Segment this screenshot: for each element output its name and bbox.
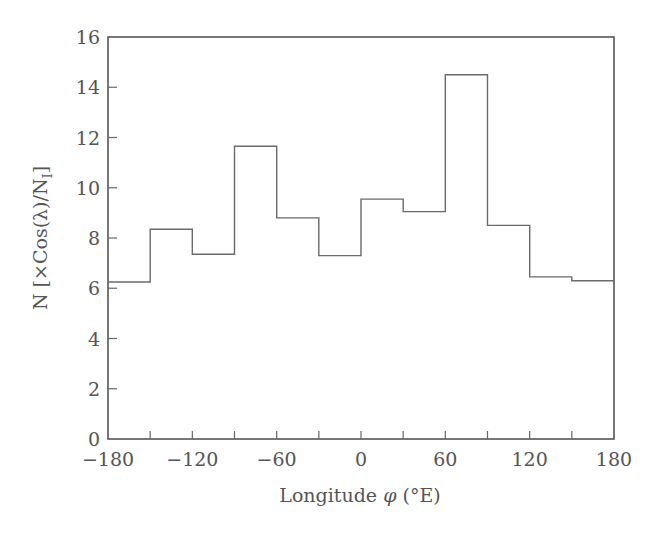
y-axis-tick-labels: 0246810121416 (76, 26, 100, 450)
y-tick-label: 14 (76, 76, 100, 98)
x-tick-label: −120 (166, 448, 218, 470)
x-axis-tick-labels: −180−120−60060120180 (82, 448, 632, 470)
x-tick-label: −60 (257, 448, 297, 470)
y-tick-label: 2 (88, 378, 100, 400)
y-tick-label: 8 (88, 227, 100, 249)
histogram-chart: −180−120−60060120180 0246810121416 Longi… (0, 0, 668, 543)
x-tick-label: 60 (433, 448, 457, 470)
y-axis-ticks (108, 87, 117, 389)
y-tick-label: 12 (76, 127, 100, 149)
y-tick-label: 6 (88, 277, 100, 299)
y-axis-title: N [×Cos(λ)/NI] (29, 166, 55, 310)
y-tick-label: 4 (88, 328, 100, 350)
x-tick-label: 120 (512, 448, 548, 470)
x-tick-label: 0 (355, 448, 367, 470)
x-axis-ticks (150, 431, 572, 439)
histogram-step-line (108, 75, 614, 282)
y-tick-label: 16 (76, 26, 100, 48)
x-tick-label: 180 (596, 448, 632, 470)
y-tick-label: 0 (88, 428, 100, 450)
x-axis-title: Longitude φ (°E) (279, 484, 440, 506)
y-tick-label: 10 (76, 177, 100, 199)
x-tick-label: −180 (82, 448, 134, 470)
